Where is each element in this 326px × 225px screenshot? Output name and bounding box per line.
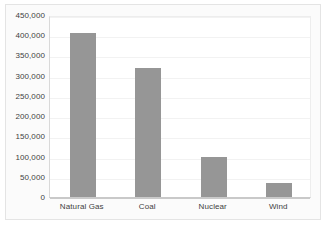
y-axis: 050,000100,000150,000200,000250,000300,0… xyxy=(0,16,45,198)
x-axis-tick-label: Coal xyxy=(115,202,181,212)
y-axis-tick-label: 400,000 xyxy=(0,32,45,40)
bar xyxy=(201,157,227,197)
y-axis-tick-label: 150,000 xyxy=(0,133,45,141)
x-axis-tick-label: Nuclear xyxy=(180,202,246,212)
axis-baseline xyxy=(50,198,310,199)
bar xyxy=(70,33,96,197)
bar-chart-figure: 050,000100,000150,000200,000250,000300,0… xyxy=(0,0,326,225)
y-axis-tick-label: 300,000 xyxy=(0,73,45,81)
y-axis-tick-label: 250,000 xyxy=(0,93,45,101)
bars-series xyxy=(50,17,310,197)
y-axis-tick-label: 200,000 xyxy=(0,113,45,121)
y-axis-tick-label: 100,000 xyxy=(0,154,45,162)
bar xyxy=(266,183,292,197)
y-axis-tick-label: 350,000 xyxy=(0,52,45,60)
x-axis-tick-label: Natural Gas xyxy=(49,202,115,212)
y-axis-tick-label: 50,000 xyxy=(0,174,45,182)
y-axis-tick-label: 450,000 xyxy=(0,12,45,20)
y-axis-tick-label: 0 xyxy=(0,194,45,202)
bar xyxy=(135,68,161,197)
plot-area xyxy=(49,16,311,198)
x-axis-tick-label: Wind xyxy=(246,202,312,212)
x-axis: Natural GasCoalNuclearWind xyxy=(49,202,311,218)
